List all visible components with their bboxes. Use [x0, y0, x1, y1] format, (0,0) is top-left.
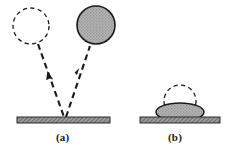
figure-container: (a) (b)	[0, 0, 231, 154]
panel-a-incoming-arrowhead	[46, 71, 53, 80]
panel-label-a: (a)	[56, 131, 69, 143]
panel-a-dashed-outline-circle	[13, 8, 49, 44]
panel-b-group	[140, 85, 220, 123]
panel-a-hatched-substrate-bar	[17, 117, 110, 123]
panel-b-hatched-substrate-bar	[140, 117, 220, 123]
panel-a-group	[13, 6, 115, 123]
figure-canvas	[0, 0, 231, 154]
panel-a-outgoing-arrow-shaft	[66, 46, 90, 117]
panel-a-filled-gray-circle	[77, 6, 115, 44]
panel-a-incoming-arrow-shaft	[38, 44, 64, 117]
panel-label-b: (b)	[168, 131, 182, 143]
